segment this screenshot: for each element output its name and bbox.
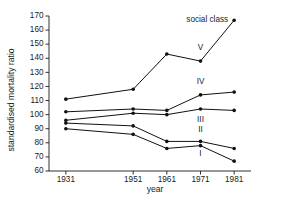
data-point [131,107,135,111]
data-point [165,140,169,144]
y-axis: 60708090100110120130140150160170 [30,11,49,175]
y-tick-label: 140 [30,53,44,62]
series-I [64,127,236,163]
y-tick-label: 130 [30,68,44,77]
x-tick-label: 1971 [191,175,210,184]
data-point [199,140,203,144]
data-point [199,59,203,63]
data-point [232,109,236,113]
series-II [64,121,236,150]
data-point [199,144,203,148]
data-point [131,133,135,137]
series-label-III: III [197,115,204,124]
y-tick-label: 90 [34,124,44,133]
y-tick-label: 80 [34,138,44,147]
data-point [131,124,135,128]
data-point [232,90,236,94]
data-point [64,127,68,131]
y-axis-title: standardised mortality ratio [6,48,16,151]
series-IV [64,90,236,113]
x-axis-title: year [147,184,164,194]
x-tick-label: 1981 [225,175,244,184]
series-label-II: II [198,125,203,134]
data-point [232,159,236,163]
series-V [64,18,236,101]
y-tick-label: 170 [30,11,44,20]
series-label-I: I [199,149,201,158]
line-chart: 60708090100110120130140150160170 1931195… [0,0,286,203]
data-point [165,113,169,117]
chart-annotation: social class [186,15,228,24]
y-tick-label: 110 [30,96,43,105]
series-label-V: V [198,43,204,52]
data-point [199,93,203,97]
series-label-IV: IV [197,77,205,86]
y-tick-label: 60 [34,166,44,175]
series-layer [64,18,236,163]
data-point [131,87,135,91]
x-tick-label: 1931 [57,175,76,184]
data-point [131,111,135,115]
data-point [232,147,236,151]
x-axis: 19311951196119711981 [49,171,251,184]
chart-container: 60708090100110120130140150160170 1931195… [0,0,286,203]
data-point [165,52,169,56]
data-point [64,110,68,114]
data-point [199,107,203,111]
x-tick-label: 1961 [158,175,177,184]
data-point [165,109,169,113]
y-tick-label: 120 [30,82,44,91]
data-point [64,121,68,125]
data-point [165,147,169,151]
x-tick-label: 1951 [124,175,143,184]
data-point [232,18,236,22]
series-labels-layer: VIVIIIIIIsocial class [186,15,228,158]
y-tick-label: 150 [30,39,44,48]
y-tick-label: 70 [34,152,44,161]
y-tick-label: 100 [30,110,44,119]
y-tick-label: 160 [30,25,44,34]
data-point [64,97,68,101]
